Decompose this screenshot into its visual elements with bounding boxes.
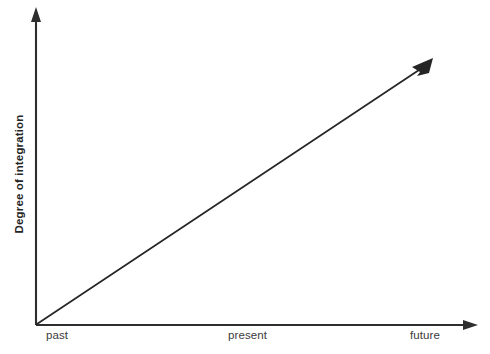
y-axis-label: Degree of integration (13, 99, 25, 249)
y-axis-label-container: Degree of integration (0, 100, 34, 250)
x-tick-label-present: present (228, 329, 267, 342)
arrow-up-icon (31, 7, 41, 22)
trend-line (37, 66, 425, 324)
x-tick-label-past: past (46, 329, 68, 342)
chart-figure: Degree of integration past present futur… (0, 0, 490, 354)
x-tick-label-future: future (410, 329, 440, 342)
chart-canvas (0, 0, 490, 354)
arrow-right-icon (463, 320, 478, 330)
